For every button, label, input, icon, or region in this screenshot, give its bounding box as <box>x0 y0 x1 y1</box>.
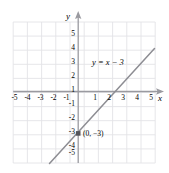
x-tick-label-2: 2 <box>105 93 113 102</box>
x-tick-label-neg2: -2 <box>49 93 58 102</box>
x-tick-label-neg3: -3 <box>36 93 45 102</box>
y-tick-label-neg2: -2 <box>63 113 75 122</box>
x-tick-label-4: 4 <box>133 93 141 102</box>
x-tick-label-neg4: -4 <box>23 93 32 102</box>
x-axis-label: x <box>158 93 162 103</box>
equation-annotation: y = x − 3 <box>92 57 124 67</box>
y-tick-label-2: 2 <box>66 71 75 80</box>
y-axis <box>75 11 81 163</box>
point-annotation-0-neg3: (0, −3) <box>83 129 103 138</box>
y-axis-label: y <box>66 11 70 21</box>
y-tick-label-1: 1 <box>66 85 75 94</box>
y-tick-label-neg3: -3 <box>63 127 75 136</box>
x-tick-label-5: 5 <box>147 93 155 102</box>
graph-canvas <box>0 0 169 173</box>
y-tick-label-4: 4 <box>66 43 75 52</box>
y-tick-label-neg1: -1 <box>63 99 75 108</box>
x-tick-label-neg5: -5 <box>10 93 19 102</box>
y-tick-label-5: 5 <box>66 29 75 38</box>
y-tick-label-neg5: -5 <box>63 148 75 157</box>
x-tick-label-3: 3 <box>119 93 127 102</box>
x-tick-label-1: 1 <box>91 93 99 102</box>
point-marker-0-neg3 <box>76 131 81 136</box>
y-tick-label-3: 3 <box>66 57 75 66</box>
coordinate-plane-figure: y x -5 -4 -3 -2 -1 1 2 3 4 5 5 4 3 2 1 -… <box>0 0 169 173</box>
